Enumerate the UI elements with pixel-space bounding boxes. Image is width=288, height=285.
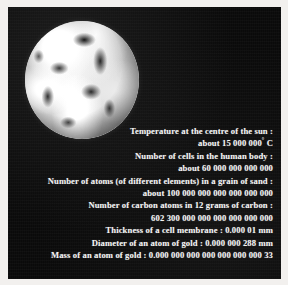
fact-number: about 15 000 000 [198,138,262,148]
fact-item: Thickness of a cell membrane : 0.000 01 … [18,224,273,236]
fact-label: Temperature at the centre of the sun : [18,125,273,137]
earth-globe-icon [25,21,139,139]
fact-item: Number of cells in the human body : abou… [18,150,273,175]
poster-page: Temperature at the centre of the sun : a… [0,0,288,285]
fact-item: Temperature at the centre of the sun : a… [18,125,273,150]
fact-label: Number of carbon atoms in 12 grams of ca… [18,199,273,211]
fact-value: 602 300 000 000 000 000 000 000 [18,212,273,224]
fact-item: Mass of an atom of gold : 0.000 000 000 … [18,249,273,261]
fact-label: Number of cells in the human body : [18,150,273,162]
black-panel: Temperature at the centre of the sun : a… [8,7,281,279]
fact-value: about 100 000 000 000 000 000 000 [18,187,273,199]
fact-item: Number of carbon atoms in 12 grams of ca… [18,199,273,224]
fact-text: Diameter of an atom of gold : 0.000 000 … [18,237,273,249]
fact-text: Thickness of a cell membrane : 0.000 01 … [18,224,273,236]
fact-value: about 15 000 000° C [18,137,273,149]
fact-item: Diameter of an atom of gold : 0.000 000 … [18,237,273,249]
fact-item: Number of atoms (of different elements) … [18,175,273,200]
fact-text: Mass of an atom of gold : 0.000 000 000 … [18,249,273,261]
fact-label: Number of atoms (of different elements) … [18,175,273,187]
fact-unit: C [264,138,273,148]
earth-photograph [25,18,140,142]
fact-value: about 60 000 000 000 000 [18,162,273,174]
facts-list: Temperature at the centre of the sun : a… [18,125,273,261]
